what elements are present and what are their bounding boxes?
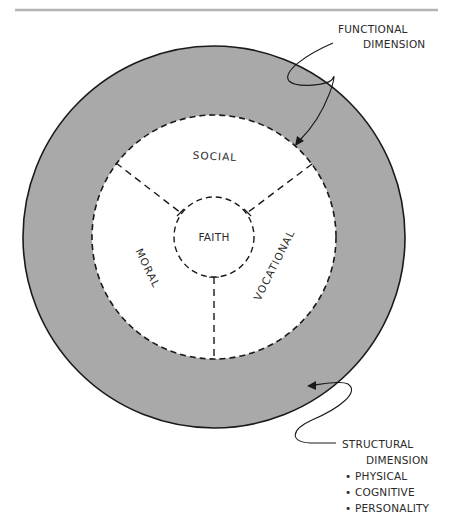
structural-bullet-cognitive: COGNITIVE [355,486,415,498]
structural-label-line2: DIMENSION [366,454,428,466]
bullet-icon: • [345,486,351,498]
functional-label-line1: FUNCTIONAL [338,23,408,35]
bullet-icon: • [345,470,351,482]
center-label-faith: FAITH [198,231,229,243]
diagram-canvas: SOCIAL FAITH MORAL VOCATIONAL FUNCTIONAL… [0,0,452,527]
sector-label-social: SOCIAL [193,149,238,163]
bullet-icon: • [345,502,351,514]
structural-label-line1: STRUCTURAL [342,438,413,450]
structural-bullet-physical: PHYSICAL [355,470,407,482]
functional-label-line2: DIMENSION [363,38,425,50]
structural-bullet-personality: PERSONALITY [355,502,430,514]
